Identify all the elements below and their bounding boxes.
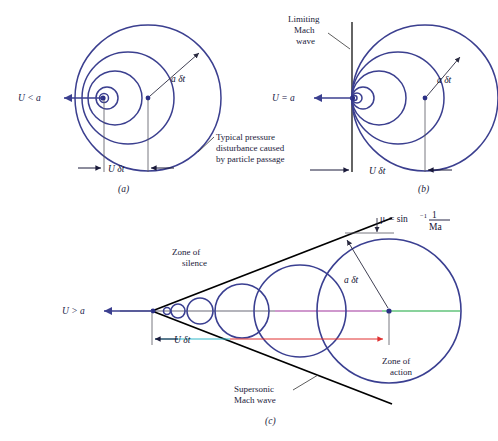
mach-angle-denominator: Ma bbox=[429, 222, 442, 232]
speed-label-a: U < a bbox=[18, 93, 41, 103]
speed-label-b: U = a bbox=[272, 93, 295, 103]
radius-label-c: a δt bbox=[344, 275, 359, 285]
mach-angle-equals: = sin bbox=[389, 214, 408, 224]
mach-angle-numerator: 1 bbox=[432, 210, 437, 220]
distance-label-c: U δt bbox=[174, 335, 191, 345]
distance-label-b: U δt bbox=[369, 166, 386, 176]
distance-label-a: U δt bbox=[108, 164, 125, 174]
mach-angle-mu: μ bbox=[380, 214, 385, 224]
mach-wave-line-1: Supersonic bbox=[234, 384, 274, 394]
annotation-line-2: disturbance caused bbox=[216, 143, 285, 153]
annotation-line-3: by particle passage bbox=[216, 154, 284, 164]
zone-silence-line-2: silence bbox=[182, 258, 207, 268]
mach-angle-exponent: −1 bbox=[420, 212, 427, 219]
particle-origin-position-c bbox=[386, 308, 391, 313]
caption-b: (b) bbox=[418, 184, 429, 195]
radius-label-a: a δt bbox=[171, 74, 186, 84]
annotation-line-1: Typical pressure bbox=[216, 132, 275, 142]
mach-wave-line-2: Mach wave bbox=[234, 395, 276, 405]
wave-label-line-3: wave bbox=[296, 36, 315, 46]
particle-origin-position-b bbox=[423, 96, 428, 101]
zone-action-line-2: action bbox=[390, 367, 412, 377]
zone-silence-line-1: Zone of bbox=[172, 247, 200, 257]
particle-origin-position-a bbox=[146, 96, 151, 101]
caption-a: (a) bbox=[118, 184, 129, 195]
wave-label-line-2: Mach bbox=[294, 25, 315, 35]
speed-label-c: U > a bbox=[62, 306, 85, 316]
wave-label-line-1: Limiting bbox=[288, 14, 320, 24]
caption-c: (c) bbox=[265, 416, 276, 427]
mach-wave-figure: U < a a δt U δt Typical pressure disturb… bbox=[0, 0, 498, 441]
radius-label-b: a δt bbox=[437, 75, 452, 85]
zone-action-line-1: Zone of bbox=[382, 356, 410, 366]
